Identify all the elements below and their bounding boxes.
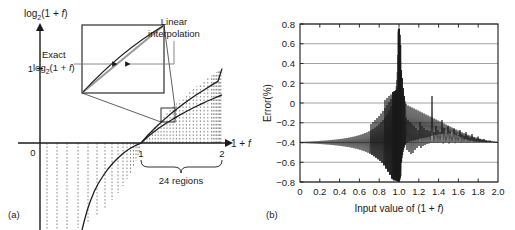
panel-b-svg: 0.8 0.6 0.4 0.2 0 −0.2 −0.4 −0.6 −0.8 0 … — [258, 0, 515, 230]
panel-a-y-axis-label: log2(1 + f) — [24, 8, 68, 21]
svg-text:1.0: 1.0 — [392, 186, 405, 197]
panel-a-label: (a) — [8, 209, 20, 220]
annotation-interp-line2: interpolation — [148, 28, 200, 39]
annotation-interp-line1: Linear — [161, 16, 187, 27]
svg-text:1.8: 1.8 — [472, 186, 485, 197]
panel-a-x-tick-label-2: 2 — [219, 148, 224, 159]
panel-a: 1 0 1 2 — [0, 0, 258, 230]
panel-b-x-axis-label: Input value of (1 + f) — [354, 203, 443, 214]
regions-label: 24 regions — [159, 175, 204, 186]
svg-text:0.6: 0.6 — [353, 186, 366, 197]
svg-text:0.4: 0.4 — [282, 58, 295, 69]
panel-a-x-tick-label-1: 1 — [138, 148, 143, 159]
panel-a-x-axis-label: 1 + f — [231, 138, 252, 149]
figure-container: 1 0 1 2 — [0, 0, 515, 230]
annotation-exact-line1: Exact — [42, 49, 66, 60]
panel-b-spike-at-one — [394, 29, 401, 183]
regions-brace — [141, 160, 222, 173]
svg-text:0: 0 — [290, 98, 295, 109]
svg-text:−0.2: −0.2 — [276, 117, 295, 128]
svg-text:−0.6: −0.6 — [276, 157, 295, 168]
svg-text:0: 0 — [297, 186, 302, 197]
panel-a-x-tick-label-0: 0 — [30, 147, 35, 158]
svg-text:0.6: 0.6 — [282, 38, 295, 49]
panel-b-x-tick-labels: 0 0.2 0.4 0.6 0.8 1.0 1.2 1.4 1.6 1.8 2.… — [297, 186, 504, 197]
panel-b-y-tick-labels: 0.8 0.6 0.4 0.2 0 −0.2 −0.4 −0.6 −0.8 — [276, 19, 295, 188]
svg-text:0.2: 0.2 — [282, 78, 295, 89]
panel-a-log-curve-line — [82, 95, 222, 230]
svg-text:−0.4: −0.4 — [276, 137, 295, 148]
svg-text:−0.8: −0.8 — [276, 177, 295, 188]
svg-text:0.8: 0.8 — [373, 186, 386, 197]
svg-text:0.2: 0.2 — [313, 186, 326, 197]
svg-text:0.4: 0.4 — [333, 186, 346, 197]
svg-text:1.2: 1.2 — [412, 186, 425, 197]
panel-a-svg: 1 0 1 2 — [0, 0, 258, 230]
svg-text:1.6: 1.6 — [452, 186, 465, 197]
svg-text:1.4: 1.4 — [432, 186, 445, 197]
svg-text:2.0: 2.0 — [491, 186, 504, 197]
panel-b-y-axis-label: Error(%) — [262, 84, 273, 122]
panel-b: 0.8 0.6 0.4 0.2 0 −0.2 −0.4 −0.6 −0.8 0 … — [258, 0, 515, 230]
annotation-exact-line2: log2(1 + f) — [33, 62, 75, 75]
panel-b-label: (b) — [266, 209, 278, 220]
svg-text:0.8: 0.8 — [282, 19, 295, 30]
